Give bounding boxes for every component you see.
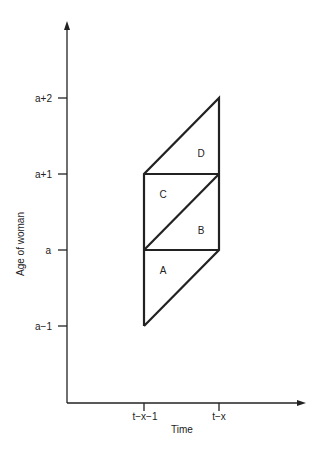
- x-axis-arrow-icon: [297, 400, 306, 406]
- y-tick-label: a+1: [35, 169, 52, 180]
- lexis-parallelogram: [144, 98, 219, 326]
- y-axis-label: Age of woman: [15, 212, 26, 276]
- region-label-c: C: [159, 189, 166, 200]
- lexis-diagram: a+2 a+1 a a−1 Age of woman t−x−1 t−x Tim…: [0, 0, 320, 454]
- y-tick-label: a+2: [35, 93, 52, 104]
- region-label-d: D: [197, 148, 204, 159]
- x-tick-label: t−x: [212, 411, 226, 422]
- y-tick-label: a: [45, 245, 51, 256]
- region-label-b: B: [198, 225, 205, 236]
- y-axis-arrow-icon: [64, 21, 70, 30]
- x-tick-label: t−x−1: [132, 411, 157, 422]
- y-tick-label: a−1: [35, 321, 52, 332]
- x-axis-label: Time: [171, 424, 193, 435]
- region-label-a: A: [160, 265, 167, 276]
